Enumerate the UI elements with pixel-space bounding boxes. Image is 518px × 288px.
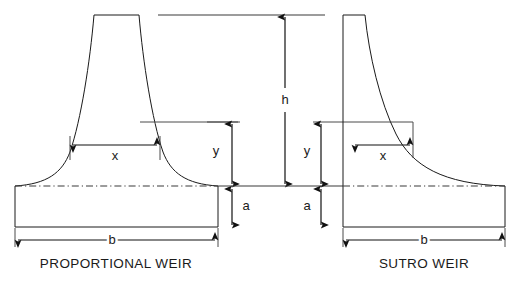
dimension-label-x-right: x bbox=[380, 148, 387, 163]
left-dimension-stack: y a bbox=[207, 122, 250, 225]
sutro-weir-group: x b SUTRO WEIR bbox=[343, 15, 505, 271]
head-dimension-group: h bbox=[281, 17, 288, 184]
proportional-weir-group: x b PROPORTIONAL WEIR bbox=[15, 15, 238, 271]
weir-diagram-page: x b PROPORTIONAL WEIR y a h bbox=[0, 0, 518, 288]
dimension-label-y-left: y bbox=[213, 143, 220, 158]
dimension-label-h: h bbox=[281, 92, 288, 107]
dimension-label-a-left: a bbox=[242, 198, 250, 213]
dimension-label-a-right: a bbox=[303, 198, 311, 213]
dimension-label-b-left: b bbox=[108, 232, 115, 247]
caption-sutro-weir: SUTRO WEIR bbox=[379, 256, 469, 271]
caption-proportional-weir: PROPORTIONAL WEIR bbox=[40, 256, 192, 271]
dimension-label-b-right: b bbox=[420, 232, 427, 247]
dimension-label-x-left: x bbox=[112, 148, 119, 163]
dimension-label-y-right: y bbox=[304, 143, 311, 158]
right-dimension-stack: y a bbox=[303, 122, 413, 225]
weir-diagram-svg: x b PROPORTIONAL WEIR y a h bbox=[0, 0, 518, 288]
proportional-weir-outline bbox=[15, 15, 218, 227]
sutro-weir-outline bbox=[343, 15, 505, 227]
